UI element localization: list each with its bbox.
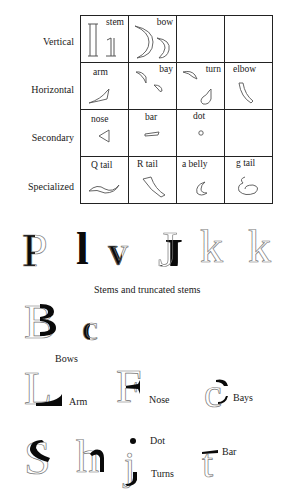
letter-p: P P xyxy=(22,228,35,282)
table-row: stem bow xyxy=(81,16,273,63)
cell-label: elbow xyxy=(233,64,256,74)
r-tail-icon xyxy=(141,175,171,201)
bay-icon xyxy=(134,69,170,101)
row-label-specialized: Specialized xyxy=(2,181,74,192)
cell-label: a belly xyxy=(182,159,208,169)
cell-r-tail: R tail xyxy=(129,157,177,204)
cell-g-tail: g tail xyxy=(225,157,273,204)
row-label-vertical: Vertical xyxy=(2,36,74,47)
s-turn-highlight xyxy=(28,438,54,468)
stems-caption: Stems and truncated stems xyxy=(94,284,200,295)
cell-label: Q tail xyxy=(91,160,112,170)
stem-icon xyxy=(85,20,125,60)
cell-empty xyxy=(225,110,273,157)
row-label-secondary: Secondary xyxy=(2,132,74,143)
cell-elbow: elbow xyxy=(225,63,273,110)
cell-nose: nose xyxy=(81,110,129,157)
cell-label: nose xyxy=(91,114,108,124)
table-row: arm bay turn elbow xyxy=(81,63,273,110)
cell-dot: dot xyxy=(177,110,225,157)
cell-bay: bay xyxy=(129,63,177,110)
j-turn-highlight xyxy=(123,472,139,488)
cell-label: dot xyxy=(193,111,205,121)
letter-k-2: k xyxy=(248,224,271,270)
b-bow-highlight xyxy=(36,302,58,338)
cell-label: bar xyxy=(145,112,157,122)
nose-highlight xyxy=(124,380,144,396)
row-label-horizontal: Horizontal xyxy=(2,84,74,95)
bows-caption: Bows xyxy=(55,353,78,364)
cell-q-tail: Q tail xyxy=(81,157,129,204)
table-row: nose bar dot xyxy=(81,110,273,157)
bays-highlight xyxy=(214,378,230,406)
cell-a-belly: a belly xyxy=(177,157,225,204)
letter-j: J J xyxy=(158,224,183,274)
cell-empty xyxy=(177,16,225,63)
bow-icon xyxy=(131,22,175,60)
a-belly-icon xyxy=(193,179,213,199)
cell-bow: bow xyxy=(129,16,177,63)
turns-caption: Turns xyxy=(151,468,174,479)
bar-caption: Bar xyxy=(222,446,236,457)
bays-caption: Bays xyxy=(233,392,253,403)
letter-l: l xyxy=(76,226,89,272)
elbow-icon xyxy=(235,81,265,109)
h-turn-highlight xyxy=(88,448,106,472)
nose-caption: Nose xyxy=(149,394,170,405)
q-tail-icon xyxy=(87,181,123,197)
arm-icon xyxy=(87,87,117,107)
cell-empty xyxy=(225,16,273,63)
arm-highlight xyxy=(36,392,64,408)
t-bar-highlight xyxy=(200,448,220,456)
arm-caption: Arm xyxy=(69,396,87,407)
nose-icon xyxy=(97,126,117,146)
letter-parts-table: stem bow arm bay xyxy=(80,15,273,204)
turn-icon xyxy=(181,69,221,107)
cell-label: R tail xyxy=(137,159,158,169)
g-tail-icon xyxy=(235,175,265,201)
letter-c: c c xyxy=(82,310,90,352)
letter-k-1: k xyxy=(200,224,223,270)
table-row: Q tail R tail a belly g tail xyxy=(81,157,273,204)
cell-stem: stem xyxy=(81,16,129,63)
cell-label: g tail xyxy=(236,158,255,168)
dot-caption: Dot xyxy=(150,435,165,446)
bar-icon xyxy=(143,128,163,138)
cell-label: arm xyxy=(93,67,108,77)
cell-bar: bar xyxy=(129,110,177,157)
letter-v: v v xyxy=(108,232,122,279)
cell-arm: arm xyxy=(81,63,129,110)
cell-turn: turn xyxy=(177,63,225,110)
dot-icon xyxy=(196,128,206,138)
